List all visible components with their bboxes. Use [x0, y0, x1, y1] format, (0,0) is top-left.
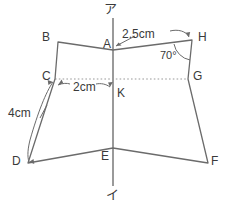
measurement-label-ck: 2cm [73, 81, 96, 93]
vertex-label-f: F [211, 155, 218, 167]
vertex-label-c: C [42, 70, 51, 82]
vertex-label-g: G [193, 70, 202, 82]
measurement-label-cd: 4cm [8, 107, 31, 119]
angle-label-h: 70° [160, 50, 177, 61]
measurement-label-ah: 2.5cm [122, 28, 155, 40]
axis-label-top: ア [104, 2, 117, 15]
polygon-outline [28, 40, 208, 163]
vertex-label-b: B [42, 31, 50, 43]
vertex-label-h: H [198, 31, 207, 43]
vertex-label-k: K [117, 87, 125, 99]
vertex-label-d: D [12, 155, 21, 167]
axis-label-bottom: イ [106, 188, 119, 201]
vertex-label-a: A [103, 38, 111, 50]
geometry-figure [0, 0, 225, 207]
vertex-label-e: E [101, 150, 109, 162]
